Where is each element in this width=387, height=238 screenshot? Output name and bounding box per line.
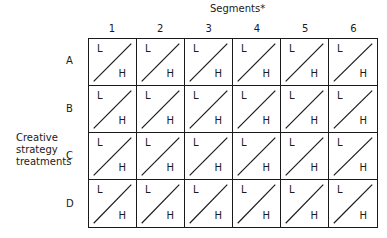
high-label: H — [310, 68, 318, 79]
low-label: L — [145, 90, 151, 101]
high-label: H — [214, 68, 222, 79]
high-label: H — [214, 162, 222, 173]
grid-cell: LH — [89, 180, 137, 227]
segments-title: Segments* — [210, 3, 265, 14]
high-label: H — [118, 115, 126, 126]
grid-cell: LH — [89, 86, 137, 133]
low-label: L — [97, 184, 103, 195]
high-label: H — [166, 115, 174, 126]
strategy-segment-grid: LHLHLHLHLHLHLHLHLHLHLHLHLHLHLHLHLHLHLHLH… — [88, 38, 378, 228]
grid-cell: LH — [281, 86, 329, 133]
low-label: L — [97, 90, 103, 101]
high-label: H — [118, 210, 126, 221]
low-label: L — [289, 137, 295, 148]
grid-cell: LH — [329, 86, 377, 133]
low-label: L — [241, 184, 247, 195]
grid-cell: LH — [89, 39, 137, 86]
grid-cell: LH — [137, 86, 185, 133]
grid-cell: LH — [89, 133, 137, 180]
column-header: 1 — [88, 23, 136, 34]
grid-cell: LH — [329, 133, 377, 180]
grid-cell: LH — [185, 180, 233, 227]
grid-cell: LH — [281, 180, 329, 227]
grid-cell: LH — [137, 180, 185, 227]
low-label: L — [193, 90, 199, 101]
low-label: L — [145, 43, 151, 54]
high-label: H — [310, 115, 318, 126]
grid-cell: LH — [233, 39, 281, 86]
column-header: 5 — [281, 23, 329, 34]
high-label: H — [359, 68, 367, 79]
grid-cell: LH — [137, 39, 185, 86]
high-label: H — [262, 162, 270, 173]
side-label-line: treatments — [16, 156, 71, 168]
high-label: H — [262, 115, 270, 126]
grid-cell: LH — [185, 39, 233, 86]
high-label: H — [262, 68, 270, 79]
low-label: L — [193, 137, 199, 148]
side-label: Creative strategy treatments — [16, 132, 71, 168]
low-label: L — [193, 184, 199, 195]
high-label: H — [166, 210, 174, 221]
low-label: L — [241, 90, 247, 101]
low-label: L — [337, 43, 343, 54]
high-label: H — [166, 162, 174, 173]
grid-cell: LH — [329, 39, 377, 86]
low-label: L — [289, 184, 295, 195]
high-label: H — [310, 210, 318, 221]
low-label: L — [145, 137, 151, 148]
high-label: H — [118, 68, 126, 79]
grid-cell: LH — [185, 86, 233, 133]
grid-cell: LH — [233, 180, 281, 227]
row-header: A — [66, 55, 73, 66]
high-label: H — [359, 210, 367, 221]
grid-cell: LH — [281, 39, 329, 86]
low-label: L — [97, 137, 103, 148]
high-label: H — [262, 210, 270, 221]
side-label-line: Creative — [16, 132, 71, 144]
row-header: B — [66, 103, 73, 114]
row-header: D — [66, 198, 74, 209]
high-label: H — [359, 162, 367, 173]
side-label-line: strategy — [16, 144, 71, 156]
grid-cell: LH — [185, 133, 233, 180]
high-label: H — [310, 162, 318, 173]
column-header: 6 — [330, 23, 378, 34]
high-label: H — [359, 115, 367, 126]
grid-cell: LH — [281, 133, 329, 180]
low-label: L — [97, 43, 103, 54]
low-label: L — [337, 137, 343, 148]
grid-cell: LH — [233, 86, 281, 133]
low-label: L — [241, 137, 247, 148]
high-label: H — [214, 115, 222, 126]
low-label: L — [193, 43, 199, 54]
low-label: L — [289, 43, 295, 54]
low-label: L — [241, 43, 247, 54]
high-label: H — [118, 162, 126, 173]
low-label: L — [337, 90, 343, 101]
high-label: H — [214, 210, 222, 221]
column-header: 3 — [185, 23, 233, 34]
column-header: 2 — [136, 23, 184, 34]
grid-cell: LH — [137, 133, 185, 180]
low-label: L — [289, 90, 295, 101]
grid-cell: LH — [329, 180, 377, 227]
grid-cell: LH — [233, 133, 281, 180]
low-label: L — [337, 184, 343, 195]
low-label: L — [145, 184, 151, 195]
column-header: 4 — [233, 23, 281, 34]
high-label: H — [166, 68, 174, 79]
